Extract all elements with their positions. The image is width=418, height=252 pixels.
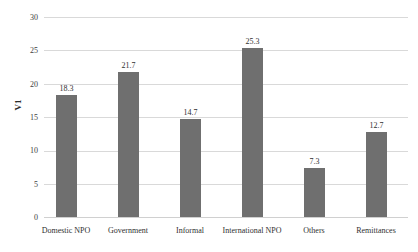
gridline-25 [44,50,408,51]
bar-value-domestic-npo: 18.3 [42,84,92,93]
y-tick-label-10: 10 [4,147,38,155]
axis-baseline [44,217,408,218]
y-tick-label-5: 5 [4,181,38,189]
bar-international-npo[interactable] [242,48,263,217]
gridline-15 [44,117,408,118]
bar-others[interactable] [304,168,325,217]
y-tick-label-20: 20 [4,81,38,89]
plot-area: 18.3 21.7 14.7 25.3 7.3 12.7 [44,17,408,218]
y-tick-label-0: 0 [4,214,38,222]
bar-value-informal: 14.7 [166,108,216,117]
y-tick-label-25: 25 [4,47,38,55]
gridline-10 [44,151,408,152]
bar-informal[interactable] [180,119,201,217]
bar-domestic-npo[interactable] [56,95,77,217]
bar-value-international-npo: 25.3 [228,37,278,46]
bar-value-remittances: 12.7 [352,121,402,130]
x-label-remittances: Remittances [338,226,414,236]
gridline-20 [44,84,408,85]
gridline-30 [44,17,408,18]
y-tick-label-30: 30 [4,14,38,22]
bar-value-government: 21.7 [104,61,154,70]
bar-government[interactable] [118,72,139,217]
bar-value-others: 7.3 [290,157,340,166]
y-tick-label-15: 15 [4,114,38,122]
bar-remittances[interactable] [366,132,387,217]
gridline-5 [44,184,408,185]
bar-chart: V1 30 25 20 15 10 5 0 18.3 21.7 14.7 25.… [0,0,418,252]
